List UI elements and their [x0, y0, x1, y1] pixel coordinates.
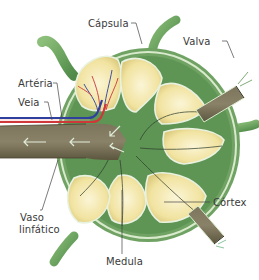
label-arteria: Artéria [18, 78, 53, 89]
efferent-lymph-vessel [0, 124, 126, 160]
lymph-node-illustration [0, 0, 259, 280]
label-medula: Medula [106, 256, 143, 267]
label-veia: Veia [18, 97, 40, 108]
label-vaso-linfatico-2: linfático [19, 224, 60, 235]
label-vaso-linfatico-1: Vaso [20, 212, 44, 223]
label-valva: Valva [183, 36, 211, 47]
label-cortex: Córtex [213, 197, 247, 208]
label-capsula: Cápsula [88, 18, 129, 29]
